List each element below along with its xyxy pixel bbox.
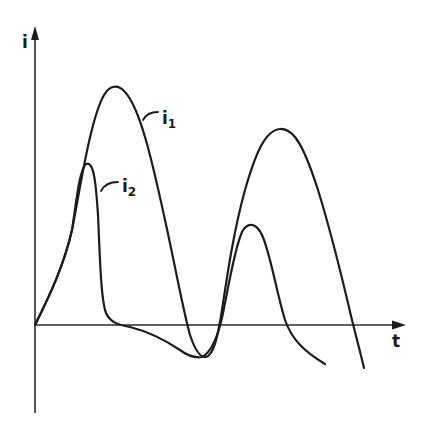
i2-leader-line: [101, 182, 118, 191]
i1-label: i1: [162, 108, 176, 131]
i1-label-group: i1: [143, 108, 176, 131]
current-time-chart: i t i1 i2: [0, 0, 423, 426]
x-axis-arrow-icon: [392, 321, 406, 330]
i2-label-group: i2: [101, 176, 136, 199]
x-axis-label: t: [392, 331, 400, 351]
i2-label: i2: [122, 176, 136, 199]
y-axis-label: i: [22, 32, 28, 52]
y-axis-arrow-icon: [31, 26, 39, 40]
curve-i1: [35, 87, 364, 368]
y-axis: i: [22, 26, 39, 413]
i1-leader-line: [143, 112, 158, 120]
